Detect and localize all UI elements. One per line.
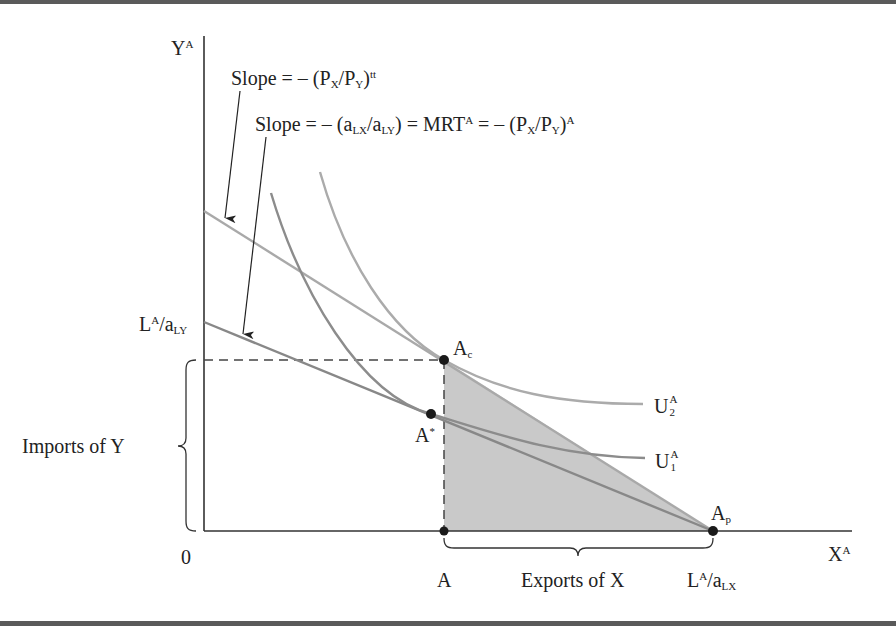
point-ac	[439, 355, 449, 365]
imports-label: Imports of Y	[22, 436, 125, 456]
production-slope-annotation: Slope = – (aLX/aLY) = MRTA = – (PX/PY)A	[255, 114, 574, 136]
imports-brace	[178, 360, 196, 531]
point-ap	[708, 526, 718, 536]
x-intercept-label: LA/aLX	[687, 570, 736, 592]
point-ac-label: Ac	[453, 338, 472, 360]
point-a-label: A	[437, 570, 451, 590]
y-axis-label: YA	[171, 38, 193, 58]
arrow-production-slope	[243, 137, 266, 334]
point-ap-label: Ap	[711, 503, 731, 525]
y-intercept-label: LA/aLY	[139, 314, 187, 336]
trade-slope-annotation: Slope = – (PX/PY)tt	[231, 68, 376, 90]
indifference-curve-u2	[320, 172, 643, 404]
point-a-star	[426, 409, 436, 419]
point-a-star-label: A*	[415, 425, 435, 445]
u1-label: UA1	[655, 451, 679, 471]
exports-brace	[444, 538, 713, 556]
point-a	[440, 527, 449, 536]
exports-label: Exports of X	[521, 570, 624, 590]
arrow-trade-slope	[225, 91, 240, 218]
x-axis-label: XA	[828, 544, 850, 564]
diagram-canvas	[0, 0, 896, 626]
u2-label: UA2	[654, 396, 678, 416]
origin-label: 0	[181, 547, 191, 567]
